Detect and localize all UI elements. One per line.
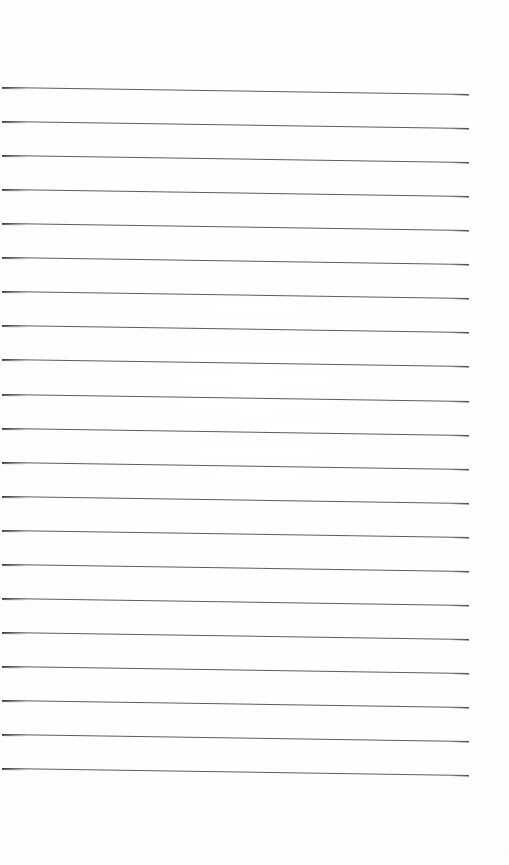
ruled-line bbox=[2, 462, 469, 470]
scanned-page bbox=[0, 0, 509, 865]
ruled-line bbox=[2, 87, 469, 95]
ruled-lines-group bbox=[0, 0, 509, 865]
ruled-line bbox=[2, 666, 469, 674]
ruled-line bbox=[2, 359, 469, 367]
ruled-line bbox=[2, 291, 469, 299]
ruled-line bbox=[2, 734, 469, 742]
ruled-line bbox=[2, 155, 469, 163]
ruled-line bbox=[2, 189, 469, 197]
ruled-line bbox=[2, 428, 469, 436]
ruled-line bbox=[2, 257, 469, 265]
ruled-line bbox=[2, 496, 469, 504]
ruled-line bbox=[2, 121, 469, 129]
ruled-line bbox=[2, 223, 469, 231]
ruled-line bbox=[2, 564, 469, 572]
ruled-line bbox=[2, 632, 469, 640]
ruled-line bbox=[2, 700, 469, 708]
ruled-line bbox=[2, 530, 469, 538]
ruled-line bbox=[2, 598, 469, 606]
ruled-line bbox=[2, 394, 469, 402]
ruled-line bbox=[2, 768, 469, 776]
ruled-line bbox=[2, 325, 469, 333]
